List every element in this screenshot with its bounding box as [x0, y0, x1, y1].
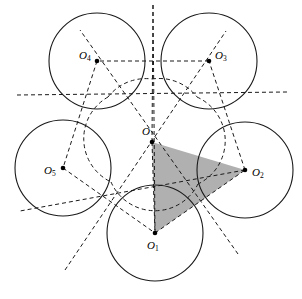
edge-O4-O5: [63, 61, 97, 168]
vertex-dot-O5: [61, 166, 66, 171]
geometry-figure: O O1 O2 O3 O4 O5: [0, 0, 302, 299]
vertex-dot-O: [150, 140, 155, 145]
ray-O-O1-b: [152, 5, 153, 142]
vertex-dot-O2: [243, 168, 248, 173]
edge-O2-O3: [209, 61, 245, 170]
radial-ray-group: [17, 5, 287, 270]
figure-canvas: [0, 0, 302, 299]
ray-O-O3: [65, 31, 226, 270]
point-label-O1: O1: [147, 240, 159, 251]
point-label-O: O: [142, 126, 150, 137]
inner-arc-left: [84, 97, 111, 182]
vertex-dot-O3: [207, 59, 212, 64]
point-label-O2: O2: [252, 167, 264, 178]
vertex-dot-O4: [95, 59, 100, 64]
shaded-triangle: [152, 142, 245, 233]
point-label-O3: O3: [215, 50, 227, 61]
point-label-O5: O5: [44, 165, 56, 176]
point-label-O4: O4: [79, 50, 91, 61]
vertex-dot-O1: [153, 231, 158, 236]
